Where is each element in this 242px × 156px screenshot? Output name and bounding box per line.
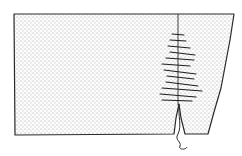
diagram-canvas — [0, 0, 242, 156]
fabric-diagram — [0, 0, 242, 156]
fabric-piece — [14, 14, 234, 135]
